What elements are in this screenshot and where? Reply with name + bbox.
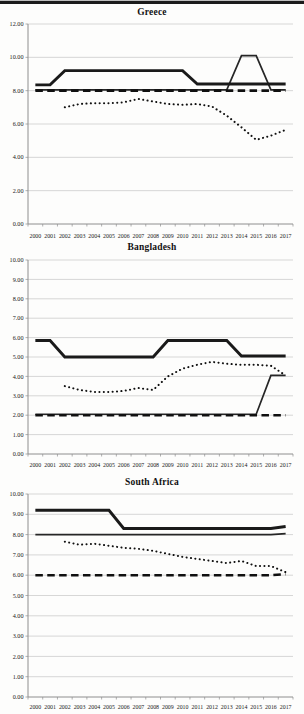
y-axis-tick-label: 9.00 xyxy=(13,510,24,517)
bangladesh-chart-title: Bangladesh xyxy=(0,242,304,252)
x-axis-year-label: 2003 xyxy=(74,233,86,239)
x-axis-year-label: 2015 xyxy=(250,462,262,468)
y-axis-tick-label: 1.00 xyxy=(13,673,24,680)
y-axis-tick-label: 10.00 xyxy=(10,256,24,263)
x-axis-year-label: 2016 xyxy=(265,233,277,239)
y-axis-tick-label: 5.00 xyxy=(13,592,24,599)
x-axis-year-label: 2003 xyxy=(74,704,86,710)
x-axis-year-label: 2002 xyxy=(59,462,71,468)
bangladesh-chart-plot: 0.001.002.003.004.005.006.007.008.009.00… xyxy=(0,256,304,470)
y-axis-tick-label: 7.00 xyxy=(13,314,24,321)
x-axis-year-label: 2015 xyxy=(250,704,262,710)
greece-chart-plot: 0.002.004.006.008.0010.0012.002000200120… xyxy=(0,20,304,246)
y-axis-tick-label: 2.00 xyxy=(13,411,24,418)
solid-thick-line xyxy=(35,71,285,85)
y-axis-tick-label: 8.00 xyxy=(13,87,24,94)
y-axis-tick-label: 6.00 xyxy=(13,334,24,341)
x-axis-year-label: 2008 xyxy=(147,233,159,239)
x-axis-year-label: 2006 xyxy=(118,462,130,468)
x-axis-year-label: 2008 xyxy=(147,462,159,468)
y-axis-tick-label: 0.00 xyxy=(13,220,24,227)
x-axis-year-label: 2011 xyxy=(192,704,204,710)
x-axis-year-label: 2016 xyxy=(265,704,277,710)
x-axis-year-label: 2017 xyxy=(280,462,292,468)
x-axis-year-label: 2001 xyxy=(44,462,56,468)
x-axis-year-label: 2001 xyxy=(44,704,56,710)
y-axis-tick-label: 10.00 xyxy=(10,53,24,60)
x-axis-year-label: 2009 xyxy=(162,704,174,710)
y-axis-tick-label: 5.00 xyxy=(13,353,24,360)
x-axis-year-label: 2014 xyxy=(236,462,248,468)
dotted-line xyxy=(65,542,286,572)
y-axis-tick-label: 2.00 xyxy=(13,187,24,194)
south-africa-chart-title: South Africa xyxy=(0,477,304,487)
x-axis-year-label: 2015 xyxy=(250,233,262,239)
x-axis-year-label: 2012 xyxy=(206,233,218,239)
x-axis-year-label: 2004 xyxy=(88,704,100,710)
y-axis-tick-label: 4.00 xyxy=(13,373,24,380)
x-axis-year-label: 2006 xyxy=(118,233,130,239)
x-axis-year-label: 2007 xyxy=(133,462,145,468)
x-axis-year-label: 2001 xyxy=(44,233,56,239)
x-axis-year-label: 2000 xyxy=(29,462,41,468)
y-axis-tick-label: 10.00 xyxy=(10,490,24,497)
y-axis-tick-label: 0.00 xyxy=(13,450,24,457)
y-axis-tick-label: 1.00 xyxy=(13,431,24,438)
y-axis-tick-label: 0.00 xyxy=(13,693,24,700)
y-axis-tick-label: 9.00 xyxy=(13,276,24,283)
y-axis-tick-label: 8.00 xyxy=(13,531,24,538)
x-axis-year-label: 2017 xyxy=(280,233,292,239)
x-axis-year-label: 2000 xyxy=(29,233,41,239)
dotted-line xyxy=(65,362,286,392)
x-axis-year-label: 2011 xyxy=(192,462,204,468)
x-axis-year-label: 2009 xyxy=(162,233,174,239)
x-axis-year-label: 2007 xyxy=(133,233,145,239)
x-axis-year-label: 2010 xyxy=(177,233,189,239)
y-axis-tick-label: 3.00 xyxy=(13,632,24,639)
page-top-border xyxy=(0,1,304,4)
x-axis-year-label: 2002 xyxy=(59,233,71,239)
x-axis-year-label: 2011 xyxy=(192,233,204,239)
document-page: Greece 0.002.004.006.008.0010.0012.00200… xyxy=(0,0,304,714)
x-axis-year-label: 2010 xyxy=(177,462,189,468)
solid-thick-line xyxy=(35,341,285,357)
x-axis-year-label: 2017 xyxy=(280,704,292,710)
x-axis-year-label: 2012 xyxy=(206,704,218,710)
y-axis-tick-label: 2.00 xyxy=(13,653,24,660)
x-axis-year-label: 2009 xyxy=(162,462,174,468)
x-axis-year-label: 2013 xyxy=(221,462,233,468)
x-axis-year-label: 2014 xyxy=(236,233,248,239)
x-axis-year-label: 2014 xyxy=(236,704,248,710)
x-axis-year-label: 2016 xyxy=(265,462,277,468)
x-axis-year-label: 2013 xyxy=(221,704,233,710)
greece-chart-title: Greece xyxy=(0,7,304,17)
x-axis-year-label: 2006 xyxy=(118,704,130,710)
y-axis-tick-label: 7.00 xyxy=(13,551,24,558)
y-axis-tick-label: 12.00 xyxy=(10,20,24,27)
x-axis-year-label: 2012 xyxy=(206,462,218,468)
x-axis-year-label: 2000 xyxy=(29,704,41,710)
x-axis-year-label: 2008 xyxy=(147,704,159,710)
solid-thin-line xyxy=(35,375,285,414)
x-axis-year-label: 2004 xyxy=(88,462,100,468)
south-africa-chart-plot: 0.001.002.003.004.005.006.007.008.009.00… xyxy=(0,490,304,714)
y-axis-tick-label: 8.00 xyxy=(13,295,24,302)
x-axis-year-label: 2005 xyxy=(103,462,115,468)
y-axis-tick-label: 4.00 xyxy=(13,612,24,619)
y-axis-tick-label: 3.00 xyxy=(13,392,24,399)
dotted-line xyxy=(65,99,286,140)
x-axis-year-label: 2007 xyxy=(133,704,145,710)
x-axis-year-label: 2002 xyxy=(59,704,71,710)
solid-thick-line xyxy=(35,510,285,528)
y-axis-tick-label: 4.00 xyxy=(13,153,24,160)
x-axis-year-label: 2005 xyxy=(103,233,115,239)
x-axis-year-label: 2003 xyxy=(74,462,86,468)
x-axis-year-label: 2005 xyxy=(103,704,115,710)
y-axis-tick-label: 6.00 xyxy=(13,120,24,127)
x-axis-year-label: 2013 xyxy=(221,233,233,239)
y-axis-tick-label: 6.00 xyxy=(13,571,24,578)
solid-thin-line xyxy=(35,534,285,535)
x-axis-year-label: 2010 xyxy=(177,704,189,710)
x-axis-year-label: 2004 xyxy=(88,233,100,239)
